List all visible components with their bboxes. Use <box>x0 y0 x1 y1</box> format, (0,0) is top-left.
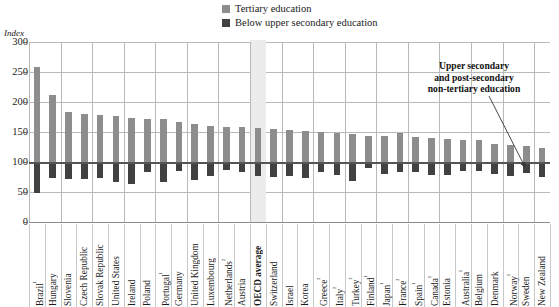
x-axis-label: Denmark <box>490 226 500 306</box>
x-axis-tick-line <box>203 224 204 307</box>
x-axis-tick-line <box>92 224 93 307</box>
x-axis-label: France² <box>395 226 408 306</box>
x-axis-tick-line <box>218 224 219 307</box>
horizontal-gridline <box>29 222 550 223</box>
bar-tertiary <box>160 119 167 162</box>
bar-below-upper-secondary <box>286 162 293 176</box>
y-axis-tick-mark <box>24 192 28 193</box>
baseline-index-100 <box>29 162 550 164</box>
vertical-gridline <box>155 42 156 222</box>
bar-tertiary <box>539 148 546 162</box>
bar-tertiary <box>223 127 230 162</box>
bar-tertiary <box>381 136 388 162</box>
bar-tertiary <box>286 130 293 162</box>
x-axis-tick-line <box>234 224 235 307</box>
bar-below-upper-secondary <box>381 162 388 174</box>
x-axis-tick-line <box>471 224 472 307</box>
bar-tertiary <box>365 136 372 162</box>
x-axis-tick-line <box>108 224 109 307</box>
x-axis-label: Slovak Republic <box>95 226 105 306</box>
y-axis-tick-mark <box>24 102 28 103</box>
bar-tertiary <box>239 127 246 162</box>
x-axis-label: Finland¹ <box>363 226 376 306</box>
x-axis-label: Greece² <box>316 226 329 306</box>
baseline-annotation-line2: and post-secondary <box>398 72 550 84</box>
bar-tertiary <box>334 133 341 162</box>
x-axis-label: New Zealand <box>537 226 547 306</box>
bar-tertiary <box>523 146 530 162</box>
vertical-gridline <box>92 42 93 222</box>
bar-below-upper-secondary <box>191 162 198 180</box>
x-axis-label: United Kingdom <box>190 226 200 306</box>
vertical-gridline <box>376 42 377 222</box>
bar-tertiary <box>97 115 104 162</box>
bar-below-upper-secondary <box>349 162 356 181</box>
x-axis-label: Israel <box>285 226 295 306</box>
y-axis-tick-mark <box>24 132 28 133</box>
bar-below-upper-secondary <box>428 162 435 175</box>
x-axis-tick-line <box>297 224 298 307</box>
x-axis-label: Belgium <box>474 226 484 306</box>
bar-tertiary <box>428 138 435 162</box>
legend-swatch-below-upper-secondary <box>222 19 230 27</box>
x-axis-tick-line <box>29 224 30 307</box>
bar-below-upper-secondary <box>255 162 262 176</box>
x-axis-tick-line <box>155 224 156 307</box>
x-axis-label: Italy² <box>332 226 345 306</box>
bar-below-upper-secondary <box>539 162 546 177</box>
bar-below-upper-secondary <box>65 162 72 179</box>
vertical-gridline <box>218 42 219 222</box>
x-axis-tick-line <box>61 224 62 307</box>
x-axis-label: Switzerland <box>269 226 279 306</box>
legend-item-tertiary: Tertiary education <box>222 2 378 15</box>
x-axis-label: Norway¹ <box>506 226 519 306</box>
x-axis-label: OECD average <box>253 226 263 306</box>
x-axis-label: Hungary <box>48 226 58 306</box>
y-axis-tick-mark <box>24 42 28 43</box>
bar-tertiary <box>176 122 183 162</box>
legend-label-below-upper-secondary: Below upper secondary education <box>235 17 378 28</box>
x-axis-label: Portugal¹ <box>158 226 171 306</box>
bar-tertiary <box>507 145 514 162</box>
bar-below-upper-secondary <box>444 162 451 175</box>
bar-tertiary <box>191 124 198 162</box>
x-axis-label: Australia¹ <box>458 226 471 306</box>
x-axis-tick-line <box>76 224 77 307</box>
bar-tertiary <box>128 118 135 162</box>
bar-below-upper-secondary <box>81 162 88 179</box>
bar-tertiary <box>302 131 309 162</box>
bar-tertiary <box>397 133 404 162</box>
x-axis-label: Ireland <box>127 226 137 306</box>
bar-below-upper-secondary <box>270 162 277 177</box>
x-axis-tick-line <box>376 224 377 307</box>
bar-below-upper-secondary <box>491 162 498 174</box>
bar-below-upper-secondary <box>334 162 341 175</box>
baseline-annotation-line3: non-tertiary education <box>398 83 550 95</box>
x-axis-label: Sweden <box>521 226 531 306</box>
x-axis-tick-line <box>487 224 488 307</box>
bar-tertiary <box>144 119 151 162</box>
bar-tertiary <box>34 67 41 162</box>
baseline-annotation-line1: Upper secondary <box>398 60 550 72</box>
x-axis-tick-line <box>329 224 330 307</box>
bar-tertiary <box>318 132 325 162</box>
bar-below-upper-secondary <box>113 162 120 182</box>
y-axis-tick-mark <box>24 72 28 73</box>
bar-tertiary <box>255 128 262 162</box>
x-axis-label: Poland <box>142 226 152 306</box>
vertical-gridline <box>187 42 188 222</box>
chart-legend: Tertiary education Below upper secondary… <box>222 2 378 30</box>
chart-container: Tertiary education Below upper secondary… <box>0 0 559 307</box>
x-axis-tick-line <box>124 224 125 307</box>
x-axis-tick-line <box>282 224 283 307</box>
bar-below-upper-secondary <box>97 162 104 178</box>
x-axis-label: Netherlands² <box>221 226 234 306</box>
vertical-gridline <box>313 42 314 222</box>
vertical-gridline <box>29 42 30 222</box>
bar-tertiary <box>460 140 467 162</box>
bar-tertiary <box>113 116 120 162</box>
bar-below-upper-secondary <box>34 162 41 193</box>
bar-tertiary <box>491 144 498 162</box>
legend-swatch-tertiary <box>222 5 230 13</box>
x-axis-tick-line <box>534 224 535 307</box>
